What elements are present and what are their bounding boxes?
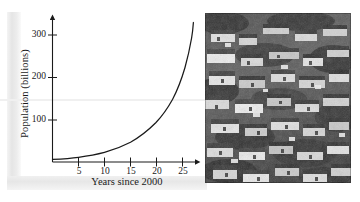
- settlement-photo: [205, 13, 351, 183]
- x-tick-label-25: 25: [173, 166, 193, 176]
- x-tick-label-20: 20: [147, 166, 167, 176]
- figure-page: 300 200 100 5 10 15 20 25 Population (bi…: [0, 0, 360, 202]
- population-curve: [53, 23, 194, 160]
- x-tick-label-15: 15: [121, 166, 141, 176]
- x-tick-label-5: 5: [69, 166, 89, 176]
- photo-artwork: [205, 13, 351, 183]
- x-axis-title: Years since 2000: [52, 176, 202, 187]
- population-chart: 300 200 100 5 10 15 20 25 Population (bi…: [0, 0, 207, 202]
- y-axis-title: Population (billions): [19, 34, 30, 154]
- x-tick-label-10: 10: [95, 166, 115, 176]
